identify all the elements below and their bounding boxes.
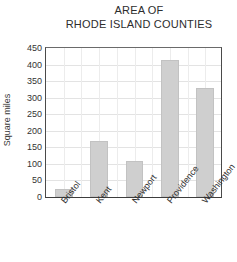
y-tick-label: 350: [14, 77, 42, 86]
chart-title-line-1: AREA OF: [46, 3, 232, 17]
y-tick-label: 300: [14, 94, 42, 103]
y-tick-label: 0: [14, 193, 42, 202]
y-tick-label: 250: [14, 110, 42, 119]
y-tick-label: 400: [14, 61, 42, 70]
y-axis-label: Square miles: [2, 55, 12, 185]
y-tick-label: 100: [14, 160, 42, 169]
bar-providence: [161, 60, 179, 197]
y-tick-label: 150: [14, 143, 42, 152]
y-tick-label: 50: [14, 176, 42, 185]
y-axis-ticks: 450400350300250200150100500: [12, 48, 42, 198]
y-tick-label: 200: [14, 127, 42, 136]
bar-washington: [196, 88, 214, 197]
x-axis-ticks: BristolKentNewportProvidenceWashington: [45, 199, 222, 261]
chart-title-line-2: RHODE ISLAND COUNTIES: [46, 17, 232, 31]
y-tick-label: 450: [14, 44, 42, 53]
bar-chart: AREA OF RHODE ISLAND COUNTIES Square mil…: [0, 0, 237, 262]
chart-title: AREA OF RHODE ISLAND COUNTIES: [46, 3, 232, 31]
